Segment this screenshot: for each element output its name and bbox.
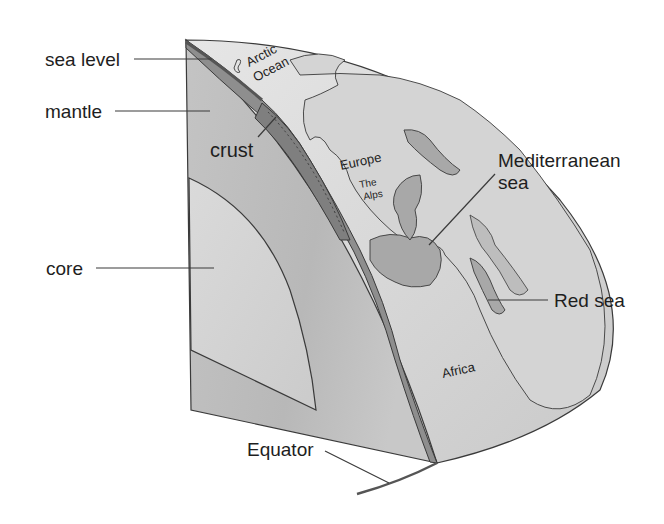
label-sea-level: sea level bbox=[45, 49, 120, 70]
label-red-sea: Red sea bbox=[554, 290, 625, 311]
equator-line bbox=[357, 463, 437, 494]
equator-leader bbox=[325, 451, 389, 483]
label-mantle: mantle bbox=[45, 101, 102, 122]
label-core: core bbox=[46, 258, 83, 279]
label-equator: Equator bbox=[247, 439, 314, 460]
label-mediterranean: Mediterranean bbox=[498, 150, 621, 171]
label-crust: crust bbox=[210, 139, 254, 161]
label-mediterranean-sea: sea bbox=[498, 172, 529, 193]
earth-cross-section-diagram: sea level mantle crust core Arctic Ocean… bbox=[0, 0, 664, 524]
